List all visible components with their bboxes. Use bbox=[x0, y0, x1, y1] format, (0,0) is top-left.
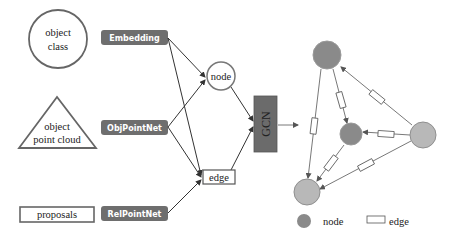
node-feature-label: node bbox=[211, 71, 232, 82]
edge-feature: edge bbox=[203, 170, 235, 184]
objpointnet-module: ObjPointNet bbox=[101, 120, 168, 135]
object-point-cloud-input: object point cloud bbox=[19, 97, 96, 148]
legend-edge-icon bbox=[367, 216, 385, 223]
object-class-input: object class bbox=[29, 10, 87, 68]
objpointnet-label: ObjPointNet bbox=[107, 124, 162, 133]
graph-node-top bbox=[313, 41, 341, 69]
legend: node edge bbox=[297, 214, 409, 228]
object-point-cloud-label-1: object bbox=[44, 121, 70, 132]
gcn-label: GCN bbox=[259, 111, 273, 137]
embedding-module: Embedding bbox=[101, 30, 168, 45]
proposals-label: proposals bbox=[37, 209, 77, 220]
graph-node-bottom-left bbox=[294, 179, 320, 205]
graph-node-middle bbox=[340, 123, 362, 145]
relpointnet-module: RelPointNet bbox=[101, 206, 168, 221]
legend-edge-label: edge bbox=[389, 216, 409, 227]
edge-feature-label: edge bbox=[209, 172, 229, 183]
legend-node-icon bbox=[297, 214, 311, 228]
object-class-label-2: class bbox=[48, 41, 68, 52]
object-class-label-1: object bbox=[45, 27, 71, 38]
node-feature: node bbox=[207, 62, 235, 90]
relpointnet-label: RelPointNet bbox=[108, 210, 162, 219]
proposals-input: proposals bbox=[20, 207, 94, 222]
graph-node-right bbox=[410, 122, 436, 148]
gcn-module: GCN bbox=[254, 96, 277, 152]
object-point-cloud-label-2: point cloud bbox=[33, 134, 81, 145]
module-connections bbox=[168, 38, 253, 213]
embedding-label: Embedding bbox=[109, 34, 160, 43]
pipeline-diagram: object class object point cloud proposal… bbox=[0, 0, 453, 240]
legend-node-label: node bbox=[323, 216, 344, 227]
